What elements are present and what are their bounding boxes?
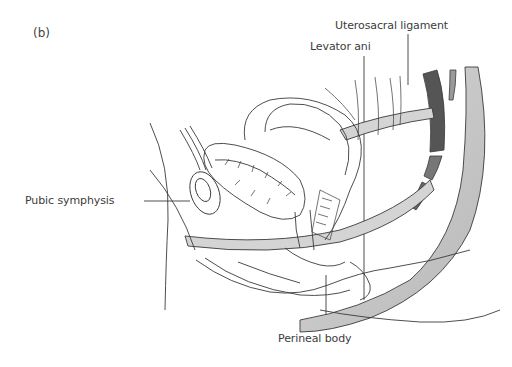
uterus: [244, 98, 361, 250]
pelvic-anatomy-illustration: [0, 0, 512, 367]
bladder: [204, 143, 305, 219]
leader-lines: [144, 34, 408, 330]
body-outline: [150, 123, 500, 322]
rectum-band: [185, 108, 434, 250]
pubic-symphysis-shape: [180, 126, 226, 218]
bladder-mucosa: [225, 159, 291, 204]
perineum: [238, 248, 370, 300]
